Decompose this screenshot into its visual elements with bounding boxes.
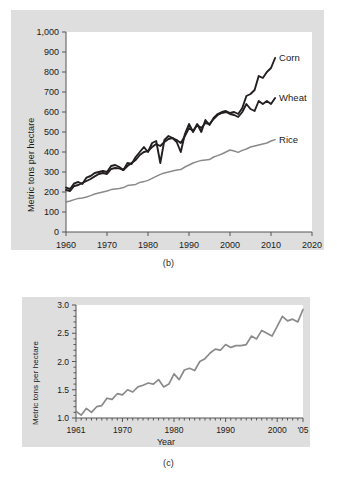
- chart-c-y-tick-label: 2.0: [57, 357, 69, 367]
- chart-c-y-tick-label: 1.0: [57, 413, 69, 423]
- figure-container: Metric tons per hectare 0100200300400500…: [0, 0, 337, 480]
- chart-c-y-tick-label: 3.0: [57, 300, 69, 310]
- chart-c-x-tick-label: 1961: [67, 425, 86, 435]
- chart-c-x-tick-label: 2000: [268, 425, 287, 435]
- chart-c: 1.01.52.02.53.019611970198019902000'05: [0, 0, 337, 480]
- chart-c-x-tick-label: 1990: [216, 425, 235, 435]
- panel-c-x-axis-label: Year: [22, 437, 310, 447]
- chart-c-y-tick-label: 2.5: [57, 328, 69, 338]
- chart-c-x-tick-label: 1980: [165, 425, 184, 435]
- panel-c-caption: (c): [0, 458, 337, 468]
- chart-c-y-tick-label: 1.5: [57, 385, 69, 395]
- chart-c-x-tick-label: 1970: [113, 425, 132, 435]
- chart-c-x-tick-label: '05: [297, 425, 308, 435]
